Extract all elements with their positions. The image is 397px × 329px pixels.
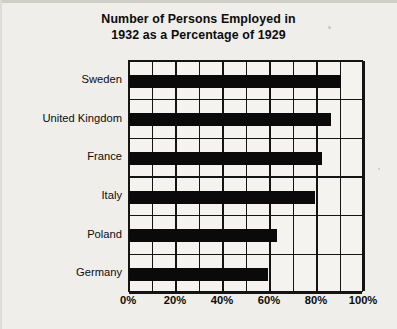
- x-tick-label: 0%: [105, 294, 151, 306]
- x-tick-label: 80%: [293, 294, 339, 306]
- scan-speck: [328, 26, 331, 29]
- bar: [129, 152, 322, 165]
- x-tick-label: 40%: [199, 294, 245, 306]
- y-gridline: [129, 215, 362, 217]
- bar: [129, 75, 341, 88]
- x-tick-label: 100%: [340, 294, 386, 306]
- plot-area: [128, 60, 363, 292]
- chart-title-line-1: Number of Persons Employed in: [101, 12, 295, 26]
- chart-title: Number of Persons Employed in 1932 as a …: [0, 12, 397, 43]
- scan-artifact-top: [0, 0, 397, 3]
- chart-figure: Number of Persons Employed in 1932 as a …: [0, 0, 397, 329]
- bar: [129, 191, 315, 204]
- value-axis-labels: 0%20%40%60%80%100%: [0, 294, 397, 314]
- bar: [129, 268, 268, 281]
- y-gridline: [129, 138, 362, 140]
- y-gridline: [129, 60, 362, 62]
- category-axis-labels: SwedenUnited KingdomFranceItalyPolandGer…: [0, 60, 122, 292]
- y-gridline: [129, 176, 362, 178]
- chart-title-line-2: 1932 as a Percentage of 1929: [0, 28, 397, 44]
- y-gridline: [129, 99, 362, 101]
- category-label: Poland: [2, 228, 122, 240]
- category-label: France: [2, 150, 122, 162]
- x-gridline: [363, 61, 365, 291]
- x-tick-label: 60%: [246, 294, 292, 306]
- category-label: Sweden: [2, 73, 122, 85]
- y-gridline: [129, 254, 362, 256]
- x-tick-label: 20%: [152, 294, 198, 306]
- bar: [129, 113, 331, 126]
- category-label: Italy: [2, 189, 122, 201]
- bar: [129, 229, 277, 242]
- scan-speck: [378, 168, 380, 170]
- category-label: United Kingdom: [2, 112, 122, 124]
- category-label: Germany: [2, 266, 122, 278]
